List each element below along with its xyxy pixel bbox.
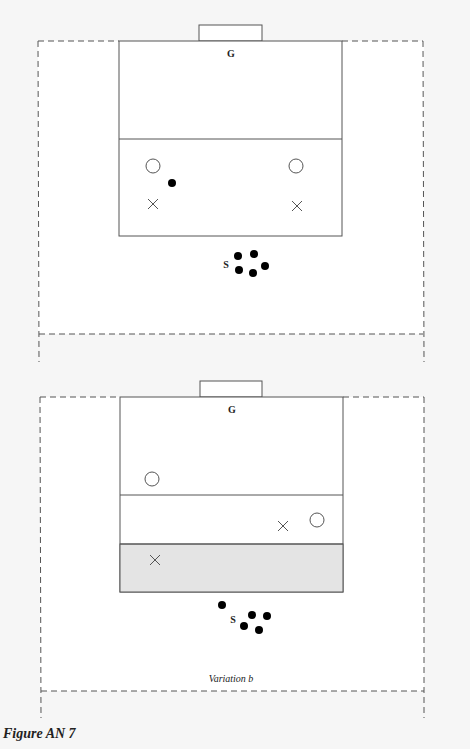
queue-dot-icon xyxy=(261,262,269,270)
goal xyxy=(199,25,262,41)
diagram-top: G S xyxy=(38,25,424,362)
server-label: S xyxy=(230,614,236,625)
queue-dot-icon xyxy=(248,611,256,619)
queue-dots xyxy=(240,611,271,634)
goal xyxy=(200,381,262,397)
queue-dot-icon xyxy=(235,266,243,274)
queue-dot-icon xyxy=(240,622,248,630)
queue-dot-icon xyxy=(249,269,257,277)
queue-dot-icon xyxy=(263,612,271,620)
variation-subtitle: Variation b xyxy=(209,673,254,684)
ball-dot-icon xyxy=(168,179,176,187)
diagram-canvas: G S G xyxy=(0,0,470,749)
figure-caption: Figure AN 7 xyxy=(3,726,76,742)
queue-dot-icon xyxy=(234,252,242,260)
goal-label: G xyxy=(228,404,236,415)
shaded-zone xyxy=(120,544,343,592)
server-label: S xyxy=(223,259,229,270)
goal-label: G xyxy=(227,48,235,59)
queue-dot-icon xyxy=(255,626,263,634)
queue-dots xyxy=(234,250,269,277)
queue-dot-icon xyxy=(250,250,258,258)
ball-dot-icon xyxy=(218,601,226,609)
diagram-variation-b: G S Variation b xyxy=(40,381,424,718)
